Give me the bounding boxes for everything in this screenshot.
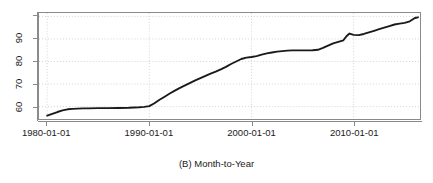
x-tick-1980 <box>46 122 47 126</box>
y-tick-70 <box>33 84 37 85</box>
x-tick-1990 <box>149 122 150 126</box>
x-tick-2010 <box>354 122 355 126</box>
chart-figure: 60708090 1980-01-011990-01-012000-01-012… <box>0 0 433 183</box>
figure-caption: (B) Month-to-Year <box>0 158 433 169</box>
y-tick-60 <box>33 107 37 108</box>
x-axis-line <box>38 121 422 122</box>
y-tick-label-90: 90 <box>8 33 30 43</box>
x-tick-label-2000: 2000-01-01 <box>227 127 276 138</box>
x-tick-label-2010: 2010-01-01 <box>330 127 379 138</box>
x-tick-2000 <box>252 122 253 126</box>
y-tick-80 <box>33 61 37 62</box>
y-tick-100 <box>33 15 37 16</box>
data-series-line <box>39 13 420 119</box>
y-tick-label-80: 80 <box>8 56 30 66</box>
y-tick-90 <box>33 38 37 39</box>
x-tick-label-1980: 1980-01-01 <box>22 127 71 138</box>
plot-area <box>38 12 421 120</box>
x-tick-label-1990: 1990-01-01 <box>125 127 174 138</box>
y-tick-label-70: 70 <box>8 79 30 89</box>
y-axis-line <box>37 12 38 121</box>
y-tick-label-60: 60 <box>8 102 30 112</box>
